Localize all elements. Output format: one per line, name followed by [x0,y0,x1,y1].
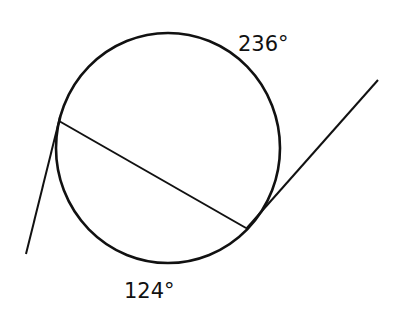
tangent-line-right [246,80,378,229]
minor-arc-label: 124° [124,279,175,303]
tangent-line-left [26,117,60,254]
geometry-diagram: 236° 124° [0,0,397,318]
chord [59,121,246,228]
major-arc-label: 236° [238,32,289,56]
